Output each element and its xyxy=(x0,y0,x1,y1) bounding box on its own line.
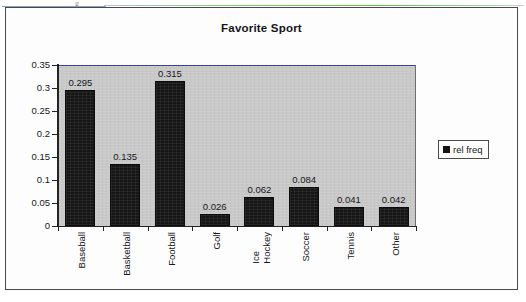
x-axis-category-label: Golf xyxy=(211,232,222,249)
bar-value-label: 0.042 xyxy=(372,194,416,205)
y-axis-tick xyxy=(52,111,58,112)
scan-line-artifact-green xyxy=(104,5,524,6)
x-axis-tick xyxy=(416,226,417,231)
bar-value-label: 0.315 xyxy=(148,68,192,79)
y-axis-tick-label: 0.25 xyxy=(6,105,50,116)
bar[interactable] xyxy=(155,81,185,226)
x-axis-category-label: Soccer xyxy=(300,232,311,262)
bar[interactable] xyxy=(334,207,364,226)
bar[interactable] xyxy=(200,214,230,226)
chart-legend[interactable]: rel freq xyxy=(438,140,489,159)
bar-value-label: 0.041 xyxy=(327,194,371,205)
x-axis-tick xyxy=(58,226,59,231)
bar[interactable] xyxy=(65,90,95,226)
x-axis-tick xyxy=(103,226,104,231)
y-axis-tick-label: 0.3 xyxy=(6,82,50,93)
x-axis-category-label: Ice Hockey xyxy=(250,232,272,264)
y-axis-tick-label: 0.15 xyxy=(6,151,50,162)
bar-value-label: 0.295 xyxy=(58,77,102,88)
y-axis-tick-label: 0.2 xyxy=(6,128,50,139)
y-axis-tick xyxy=(52,180,58,181)
x-axis-tick xyxy=(371,226,372,231)
x-axis-tick xyxy=(192,226,193,231)
y-axis-labels: 0.350.30.250.20.150.10.050 xyxy=(6,8,50,289)
x-axis-tick xyxy=(148,226,149,231)
y-axis-tick xyxy=(52,65,58,66)
y-axis-tick-label: 0.35 xyxy=(6,59,50,70)
bar-value-label: 0.084 xyxy=(282,174,326,185)
bar[interactable] xyxy=(110,164,140,226)
bar[interactable] xyxy=(244,197,274,226)
legend-label: rel freq xyxy=(453,144,483,155)
y-axis-tick-label: 0.1 xyxy=(6,174,50,185)
x-axis-category-label: Baseball xyxy=(76,232,87,268)
y-axis-tick xyxy=(52,157,58,158)
bar-value-label: 0.062 xyxy=(237,184,281,195)
y-axis-tick-label: 0 xyxy=(6,220,50,231)
x-axis-category-label: Tennis xyxy=(345,232,356,259)
x-axis-tick xyxy=(327,226,328,231)
x-axis-category-label: Football xyxy=(166,232,177,266)
y-axis-tick xyxy=(52,134,58,135)
y-axis-tick xyxy=(52,226,58,227)
bar-value-label: 0.135 xyxy=(103,151,147,162)
bar[interactable] xyxy=(379,207,409,226)
y-axis-tick-label: 0.05 xyxy=(6,197,50,208)
bar-value-label: 0.026 xyxy=(193,201,237,212)
chart-frame: Favorite Sport 0.350.30.250.20.150.10.05… xyxy=(5,7,518,290)
x-axis-tick xyxy=(237,226,238,231)
bar[interactable] xyxy=(289,187,319,226)
y-axis-tick xyxy=(52,203,58,204)
chart-title: Favorite Sport xyxy=(6,22,517,34)
legend-swatch-icon xyxy=(443,146,450,153)
x-axis-category-label: Other xyxy=(390,232,401,256)
y-axis-tick xyxy=(52,88,58,89)
x-axis-tick xyxy=(282,226,283,231)
x-axis-category-label: Basketball xyxy=(121,232,132,276)
